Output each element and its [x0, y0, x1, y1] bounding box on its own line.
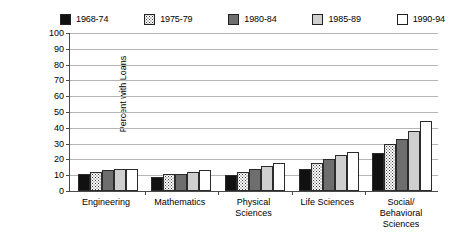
- x-axis-label: Physical Sciences: [217, 197, 291, 230]
- legend-item-1990-94: 1990-94: [397, 14, 445, 25]
- x-tick-mark: [218, 191, 219, 195]
- bar: [261, 166, 273, 191]
- chart-legend: 1968-741975-791980-841985-891990-94: [60, 11, 445, 27]
- bar: [175, 174, 187, 191]
- y-tick-label: 60: [54, 92, 64, 101]
- bar-group: [365, 33, 439, 191]
- bar: [384, 144, 396, 191]
- bar: [372, 153, 384, 191]
- x-axis-label: Engineering: [69, 197, 143, 230]
- legend-swatch-icon: [228, 14, 239, 25]
- bar: [347, 152, 359, 192]
- y-tick-mark: [66, 128, 70, 129]
- bar: [163, 174, 175, 191]
- y-tick-label: 30: [54, 139, 64, 148]
- bar: [199, 170, 211, 191]
- legend-item-1975-79: 1975-79: [144, 14, 192, 25]
- y-tick-mark: [66, 159, 70, 160]
- x-tick-mark: [145, 191, 146, 195]
- y-tick-label: 40: [54, 123, 64, 132]
- y-tick-mark: [66, 112, 70, 113]
- y-tick-mark: [66, 191, 70, 192]
- y-tick-label: 70: [54, 76, 64, 85]
- legend-label: 1968-74: [76, 14, 108, 24]
- y-tick-label: 20: [54, 155, 64, 164]
- legend-swatch-icon: [312, 14, 323, 25]
- bar-groups: [71, 33, 439, 191]
- y-tick-label: 90: [54, 44, 64, 53]
- y-tick-label: 80: [54, 60, 64, 69]
- bar: [396, 139, 408, 191]
- bar: [335, 155, 347, 191]
- bar: [187, 172, 199, 191]
- legend-swatch-icon: [60, 14, 71, 25]
- bar: [273, 163, 285, 191]
- bar: [420, 121, 432, 191]
- x-tick-mark: [365, 191, 366, 195]
- bar: [408, 131, 420, 191]
- bar-chart: 1968-741975-791980-841985-891990-94 Perc…: [0, 0, 455, 243]
- bar: [237, 172, 249, 191]
- y-tick-mark: [66, 175, 70, 176]
- bar: [249, 169, 261, 191]
- legend-item-1985-89: 1985-89: [312, 14, 360, 25]
- bar-group: [218, 33, 292, 191]
- y-tick-mark: [66, 49, 70, 50]
- x-axis-label: Mathematics: [143, 197, 217, 230]
- bar: [323, 159, 335, 191]
- x-axis-labels: EngineeringMathematicsPhysical SciencesL…: [69, 197, 438, 230]
- y-tick-label: 50: [54, 108, 64, 117]
- x-axis-label: Life Sciences: [290, 197, 364, 230]
- y-tick-label: 100: [49, 29, 64, 38]
- y-tick-mark: [66, 96, 70, 97]
- legend-label: 1975-79: [160, 14, 192, 24]
- bar: [126, 169, 138, 191]
- y-tick-mark: [66, 33, 70, 34]
- y-tick-label: 0: [59, 187, 64, 196]
- bar-group: [145, 33, 219, 191]
- legend-swatch-icon: [144, 14, 155, 25]
- plot-area: Percent with Loans 100908070605040302010…: [69, 33, 438, 192]
- bar: [78, 174, 90, 191]
- bar: [114, 169, 126, 191]
- x-tick-mark: [292, 191, 293, 195]
- bar-group: [71, 33, 145, 191]
- bar: [90, 172, 102, 191]
- bar: [102, 170, 114, 191]
- y-tick-mark: [66, 65, 70, 66]
- y-tick-label: 10: [54, 171, 64, 180]
- y-tick-mark: [66, 144, 70, 145]
- y-tick-mark: [66, 80, 70, 81]
- bar-group: [292, 33, 366, 191]
- legend-label: 1990-94: [413, 14, 445, 24]
- x-axis-label: Social/ Behavioral Sciences: [364, 197, 438, 230]
- legend-item-1968-74: 1968-74: [60, 14, 108, 25]
- legend-label: 1985-89: [328, 14, 360, 24]
- bar: [311, 163, 323, 191]
- bar: [299, 169, 311, 191]
- bar: [151, 177, 163, 191]
- legend-swatch-icon: [397, 14, 408, 25]
- bar: [225, 175, 237, 191]
- legend-label: 1980-84: [244, 14, 276, 24]
- legend-item-1980-84: 1980-84: [228, 14, 276, 25]
